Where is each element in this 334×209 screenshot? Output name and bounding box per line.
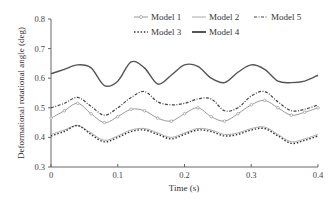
y-axis-title: Deformational rotational angle (deg) [16,27,26,159]
legend-item-model-2: Model 2 [192,12,239,22]
y-tick-label: 0.7 [34,44,45,54]
series-marker [157,117,160,120]
series-marker [237,112,240,115]
series-marker [90,112,93,115]
series-marker [183,112,186,115]
series-marker [277,107,280,110]
legend-item-model-1: Model 1 [134,12,181,22]
y-tick-label: 0.6 [34,73,45,83]
series-model-1 [51,100,318,122]
y-tick-label: 0.3 [34,162,45,172]
x-axis-title: Time (s) [169,183,199,193]
series-marker [290,114,293,117]
series-marker [210,115,213,118]
y-tick-label: 0.4 [34,132,45,142]
legend-label: Model 3 [151,27,182,37]
series-marker [63,109,66,112]
legend-item-model-4: Model 4 [192,27,240,37]
series-marker [116,115,119,118]
chart-series [50,61,320,143]
line-chart: Model 1Model 2Model 3Model 4Model 5 0.30… [0,0,334,209]
series-marker [317,107,320,110]
series-marker [303,111,306,114]
series-marker [143,109,146,112]
legend-item-model-5: Model 5 [254,12,302,22]
series-marker [170,120,173,123]
series-model-5 [51,91,318,115]
x-tick-label: 0.3 [246,170,257,180]
series-marker [223,120,226,123]
chart-legend: Model 1Model 2Model 3Model 4Model 5 [134,12,302,37]
series-marker [197,107,200,110]
y-tick-label: 0.8 [34,14,45,24]
x-tick-label: 0 [49,170,53,180]
legend-item-model-3: Model 3 [134,27,182,37]
series-marker [76,102,79,105]
y-tick-label: 0.5 [34,103,45,113]
legend-label: Model 5 [271,12,302,22]
legend-label: Model 1 [151,12,181,22]
legend-label: Model 4 [209,27,240,37]
series-marker [250,104,253,107]
legend-label: Model 2 [209,12,239,22]
series-model-4 [51,61,318,86]
x-tick-label: 0.1 [112,170,123,180]
series-marker [103,121,106,124]
x-tick-label: 0.4 [313,170,324,180]
x-tick-label: 0.2 [179,170,190,180]
series-marker [50,117,53,120]
series-marker [130,108,133,111]
series-marker [263,99,266,102]
